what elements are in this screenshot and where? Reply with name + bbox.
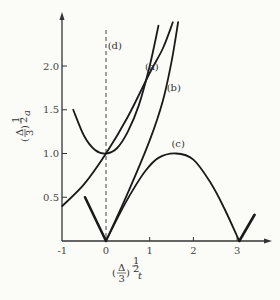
curve-label-b: (b): [167, 82, 181, 93]
x-axis-arrow-icon: [264, 239, 272, 244]
x-tick-label: 3: [234, 245, 240, 256]
x-axis-label: ( Δ 3 ) 1 2 t: [112, 255, 143, 284]
svg-text:t: t: [138, 270, 143, 281]
y-tick-label: 0.5: [43, 192, 59, 203]
svg-text:3: 3: [119, 273, 125, 284]
svg-text:(: (: [112, 267, 116, 278]
curve-label-d: (d): [108, 40, 122, 51]
chart: -101230.51.01.52.0 (d)(a)(b)(c) ( Δ 3 ) …: [0, 0, 280, 300]
curve-right-branch: [239, 215, 254, 241]
x-tick-label: -1: [57, 245, 67, 256]
svg-text:3: 3: [24, 130, 35, 136]
curve-label-c: (c): [171, 138, 185, 149]
y-axis-label: ( Δ 3 ) 1 2 a: [10, 110, 35, 142]
svg-text:Δ: Δ: [118, 262, 125, 273]
y-tick-label: 1.5: [43, 104, 59, 115]
svg-text:): ): [19, 125, 30, 129]
y-tick-label: 2.0: [43, 61, 59, 72]
x-tick-label: 1: [147, 245, 153, 256]
svg-text:(: (: [19, 138, 30, 142]
curve-b: [106, 22, 178, 241]
curve-label-a: (a): [145, 61, 159, 72]
y-tick-label: 1.0: [43, 148, 59, 159]
svg-text:2: 2: [18, 117, 29, 123]
y-axis-arrow-icon: [60, 12, 65, 20]
axes: [62, 18, 266, 241]
svg-text:a: a: [21, 110, 32, 116]
curve-left-branch: [85, 197, 106, 241]
curves: [62, 22, 254, 241]
svg-text:): ): [126, 267, 130, 278]
x-tick-label: 2: [190, 245, 196, 256]
x-tick-label: 0: [103, 245, 109, 256]
